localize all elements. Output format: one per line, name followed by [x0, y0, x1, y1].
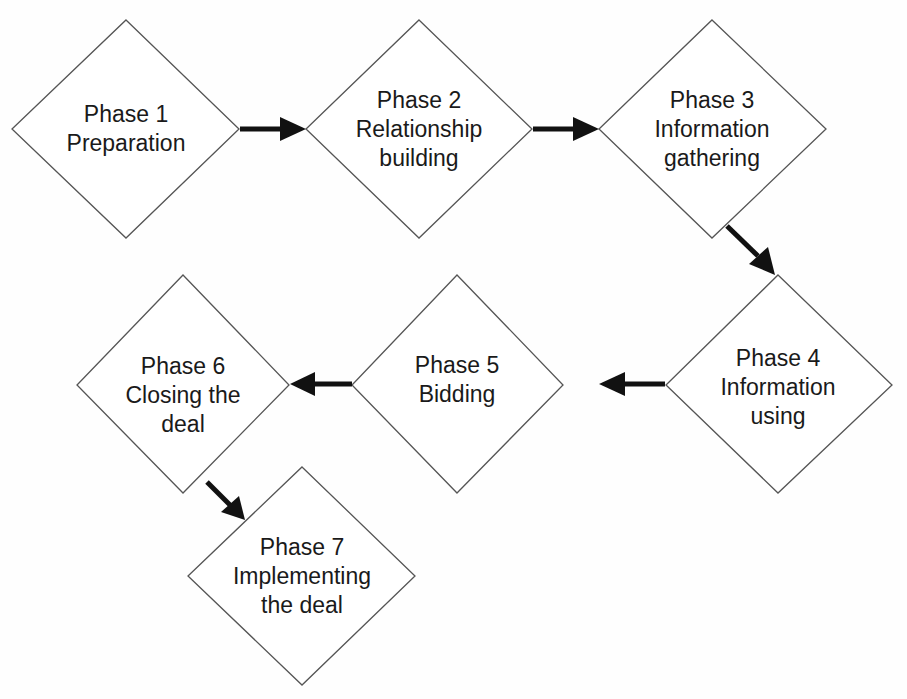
node-phase1: Phase 1 Preparation — [67, 100, 186, 158]
phase4-title: Phase 4 — [720, 344, 835, 373]
arrow-phase4-to-phase5 — [599, 372, 665, 396]
phase3-name-line2: gathering — [654, 144, 769, 173]
node-phase6: Phase 6 Closing the deal — [125, 352, 240, 439]
phase6-name-line1: Closing the — [125, 381, 240, 410]
node-phase3: Phase 3 Information gathering — [654, 86, 769, 173]
phase5-title: Phase 5 — [415, 351, 499, 380]
phase4-name-line2: using — [720, 402, 835, 431]
phase7-title: Phase 7 — [233, 533, 371, 562]
phase7-name-line1: Implementing — [233, 562, 371, 591]
arrow-phase3-to-phase4 — [727, 226, 775, 275]
node-phase5: Phase 5 Bidding — [415, 351, 499, 409]
node-phase2: Phase 2 Relationship building — [356, 86, 483, 173]
phase5-name: Bidding — [415, 380, 499, 409]
phase6-title: Phase 6 — [125, 352, 240, 381]
phase2-name-line2: building — [356, 144, 483, 173]
phase7-name-line2: the deal — [233, 591, 371, 620]
arrow-phase6-to-phase7 — [207, 482, 245, 520]
arrow-phase2-to-phase3 — [533, 117, 599, 141]
phase3-title: Phase 3 — [654, 86, 769, 115]
node-phase7: Phase 7 Implementing the deal — [233, 533, 371, 620]
phase6-name-line2: deal — [125, 410, 240, 439]
phase-flowchart: Phase 1 Preparation Phase 2 Relationship… — [0, 0, 907, 699]
phase2-title: Phase 2 — [356, 86, 483, 115]
arrow-phase1-to-phase2 — [240, 117, 306, 141]
phase1-name: Preparation — [67, 129, 186, 158]
phase3-name-line1: Information — [654, 115, 769, 144]
phase2-name-line1: Relationship — [356, 115, 483, 144]
phase4-name-line1: Information — [720, 373, 835, 402]
phase1-title: Phase 1 — [67, 100, 186, 129]
node-phase4: Phase 4 Information using — [720, 344, 835, 431]
arrow-phase5-to-phase6 — [290, 372, 352, 396]
